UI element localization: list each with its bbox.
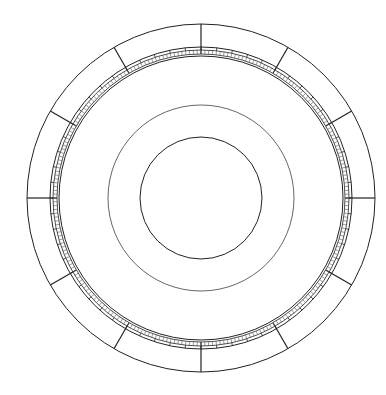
subdivision-line <box>79 285 81 287</box>
fine-tick <box>313 289 316 292</box>
fine-tick <box>178 340 179 344</box>
fine-tick <box>155 335 156 339</box>
fine-tick <box>71 267 75 269</box>
fine-tick <box>276 321 278 324</box>
fine-tick <box>163 55 164 59</box>
fine-tick <box>148 60 149 64</box>
subdivision-line <box>342 151 345 152</box>
subdivision-line <box>100 308 102 310</box>
fine-tick <box>334 141 338 143</box>
subdivision-line <box>63 137 66 138</box>
fine-tick <box>67 260 71 262</box>
fine-tick <box>249 58 250 62</box>
middle-circle <box>108 105 294 291</box>
subdivision-line <box>232 50 233 53</box>
fine-tick <box>166 54 167 58</box>
fine-tick <box>55 171 59 172</box>
fine-tick <box>343 224 347 225</box>
fine-tick <box>292 83 295 86</box>
fine-tick <box>130 325 132 329</box>
fine-tick <box>235 54 236 58</box>
subdivision-line <box>336 258 339 259</box>
band-outer-circle <box>50 47 352 349</box>
fine-tick <box>64 253 68 255</box>
fine-tick <box>130 68 132 72</box>
fine-tick <box>159 56 160 60</box>
fine-tick <box>324 273 327 275</box>
subdivision-line <box>112 318 114 320</box>
fine-tick <box>231 339 232 343</box>
fine-tick <box>91 99 94 102</box>
fine-tick <box>342 228 346 229</box>
fine-tick <box>331 260 335 262</box>
fine-tick <box>329 131 333 133</box>
fine-tick <box>134 326 136 330</box>
fine-tick <box>127 70 129 73</box>
fine-tick <box>300 302 303 305</box>
fine-tick <box>108 310 111 313</box>
fine-tick <box>224 340 225 344</box>
fine-tick <box>144 331 146 335</box>
subdivision-line <box>247 339 248 342</box>
fine-tick <box>114 78 116 81</box>
fine-tick <box>343 171 347 172</box>
fine-tick <box>220 51 221 55</box>
fine-tick <box>249 334 250 338</box>
subdivision-line <box>342 244 345 245</box>
fine-tick <box>242 56 243 60</box>
fine-tick <box>60 152 64 153</box>
fine-tick <box>338 243 342 244</box>
fine-tick <box>66 138 70 140</box>
subdivision-line <box>288 318 290 320</box>
subdivision-line <box>300 308 302 310</box>
fine-tick <box>322 276 325 278</box>
fine-tick <box>227 340 228 344</box>
fine-tick <box>105 308 108 311</box>
fine-tick <box>303 300 306 303</box>
fine-tick <box>114 315 116 318</box>
fine-tick <box>79 114 82 116</box>
fine-tick <box>134 66 136 70</box>
outer-circle <box>27 24 375 372</box>
fine-tick <box>77 117 80 119</box>
fine-tick <box>286 78 288 81</box>
fine-tick <box>339 239 343 240</box>
fine-tick <box>337 149 341 150</box>
tick-inner-circle <box>57 54 345 342</box>
subdivision-line <box>288 76 290 78</box>
fine-tick <box>326 270 329 272</box>
fine-tick <box>308 294 311 297</box>
fine-tick <box>111 312 113 315</box>
inner-circle <box>140 137 262 259</box>
fine-tick <box>54 217 58 218</box>
fine-tick <box>227 52 228 56</box>
fine-tick <box>96 300 99 303</box>
fine-tick <box>75 273 78 275</box>
fine-tick <box>94 297 97 300</box>
fine-tick <box>318 283 321 285</box>
fine-tick <box>308 99 311 102</box>
subdivision-line <box>89 297 91 299</box>
fine-tick <box>63 145 67 146</box>
fine-tick <box>297 88 300 91</box>
subdivision-line <box>311 97 313 99</box>
subdivision-line <box>346 229 349 230</box>
middle-circle-ring <box>108 105 294 291</box>
fine-tick <box>117 317 119 320</box>
fine-tick <box>88 102 91 105</box>
fine-tick <box>339 156 343 157</box>
fine-tick <box>71 127 75 129</box>
fine-tick <box>99 91 102 94</box>
fine-tick <box>159 336 160 340</box>
subdivision-line <box>247 54 248 57</box>
fine-tick <box>56 228 60 229</box>
fine-tick <box>55 221 59 222</box>
fine-tick <box>64 141 68 143</box>
fine-tick <box>303 93 306 96</box>
fine-tick <box>58 235 62 236</box>
subdivision-line <box>311 297 313 299</box>
fine-tick <box>326 124 329 126</box>
subdivision-line <box>140 60 141 63</box>
fine-tick <box>59 239 63 240</box>
subdivision-line <box>336 137 339 138</box>
